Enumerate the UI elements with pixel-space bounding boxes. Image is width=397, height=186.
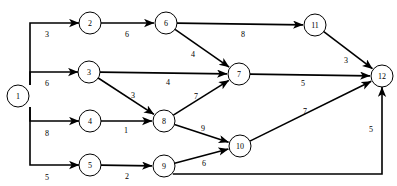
edge-weight-10-12: 7 [303,107,307,116]
node-label-10: 10 [236,142,244,151]
node-label-5: 5 [88,161,92,170]
edges-layer [30,23,382,174]
graph-diagram: 368568443179263575 123456789101112 [0,0,397,186]
edge-weight-1-4: 8 [45,129,49,138]
edge-weight-9-12: 5 [369,125,373,134]
node-label-2: 2 [88,19,92,28]
nodes-layer: 123456789101112 [7,12,393,177]
edge-weight-2-6: 6 [125,30,129,39]
node-6[interactable]: 6 [155,12,177,34]
node-8[interactable]: 8 [153,110,175,132]
node-11[interactable]: 11 [304,14,326,36]
node-7[interactable]: 7 [228,63,250,85]
node-1[interactable]: 1 [7,85,29,107]
edge-weight-4-8: 1 [124,126,128,135]
node-3[interactable]: 3 [78,61,100,83]
node-4[interactable]: 4 [79,110,101,132]
edge-3-to-8 [98,78,154,114]
edge-weight-7-12: 5 [301,79,305,88]
edge-weight-1-5: 5 [45,173,49,182]
edge-weight-8-10: 9 [201,124,205,133]
edge-3-to-7 [100,72,227,74]
node-2[interactable]: 2 [79,12,101,34]
edge-1-to-5 [30,107,79,165]
edge-weight-5-9: 2 [125,172,129,181]
edge-weight-11-12: 3 [344,56,348,65]
node-label-4: 4 [88,117,92,126]
edge-5-to-9 [101,165,152,166]
edge-weight-1-2: 3 [45,30,49,39]
node-label-1: 1 [16,92,20,101]
node-9[interactable]: 9 [153,155,175,177]
edge-weight-6-11: 8 [241,30,245,39]
edge-weight-3-7: 4 [166,78,170,87]
node-label-11: 11 [311,21,319,30]
node-label-7: 7 [237,70,241,79]
edge-1-to-3 [30,72,78,85]
node-label-9: 9 [162,162,166,171]
node-label-8: 8 [162,117,166,126]
edge-weight-8-7: 7 [194,92,198,101]
edge-weight-1-3: 6 [45,79,49,88]
node-label-6: 6 [164,19,168,28]
edge-6-to-11 [177,23,303,25]
edge-7-to-12 [250,74,370,76]
edge-10-to-12 [250,81,371,141]
edge-weight-6-7: 4 [191,50,195,59]
edge-6-to-7 [175,29,229,67]
node-label-3: 3 [87,68,91,77]
edge-weight-9-10: 6 [202,159,206,168]
edge-1-to-2 [30,23,79,85]
edge-weight-3-8: 3 [131,91,135,100]
node-12[interactable]: 12 [371,65,393,87]
node-5[interactable]: 5 [79,154,101,176]
edge-1-to-4 [30,107,79,121]
graph-svg: 368568443179263575 123456789101112 [0,0,397,186]
edge-8-to-7 [173,80,229,115]
node-10[interactable]: 10 [229,135,251,157]
node-label-12: 12 [378,72,386,81]
edge-11-to-12 [324,32,373,69]
